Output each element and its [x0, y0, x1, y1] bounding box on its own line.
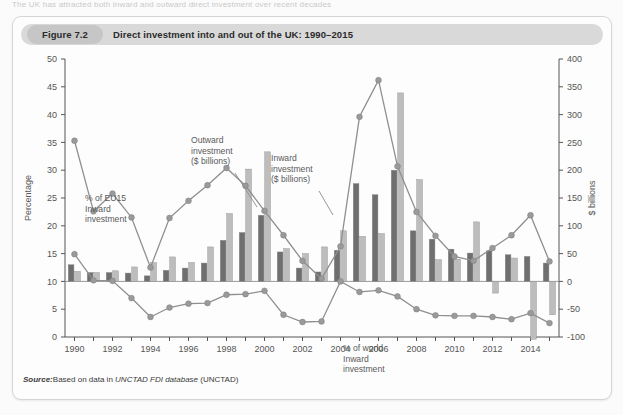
- bar-inward-investment: [524, 256, 530, 281]
- annotation-eu15: % of EU15Inwardinvestment: [85, 193, 127, 224]
- line-marker: [452, 253, 458, 259]
- line-marker: [376, 77, 382, 83]
- bar-outward-investment: [493, 281, 499, 293]
- bar-outward-investment: [189, 263, 195, 282]
- line-marker: [528, 212, 534, 218]
- y-tick-label-left: 0: [52, 332, 57, 342]
- chart-plot-area: 05101520253035404550-100-500501001502002…: [13, 45, 611, 375]
- bar-outward-investment: [284, 249, 290, 282]
- bar-inward-investment: [429, 239, 435, 281]
- x-tick-label: 1996: [178, 344, 198, 354]
- y-tick-label-left: 5: [52, 304, 57, 314]
- line-marker: [110, 278, 116, 284]
- source-text-1: Based on data in: [53, 375, 115, 384]
- line-marker: [490, 245, 496, 251]
- bar-inward-investment: [391, 170, 397, 281]
- line-marker: [281, 232, 287, 238]
- bar-outward-investment: [170, 257, 176, 281]
- bar-inward-investment: [467, 253, 473, 281]
- source-lead: Source:: [23, 375, 53, 384]
- bar-outward-investment: [303, 254, 309, 282]
- y-tick-label-right: 300: [567, 110, 582, 120]
- y-tick-label-right: -50: [567, 304, 580, 314]
- y-tick-label-right: 400: [567, 54, 582, 64]
- y-tick-label-left: 45: [47, 82, 57, 92]
- line-marker: [547, 258, 553, 264]
- x-tick-label: 2008: [406, 344, 426, 354]
- line-marker: [186, 301, 192, 307]
- bar-outward-investment: [474, 222, 480, 281]
- line-marker: [471, 258, 477, 264]
- y-tick-label-right: 150: [567, 193, 582, 203]
- line-marker: [547, 320, 553, 326]
- bar-outward-investment: [398, 93, 404, 281]
- line-marker: [357, 114, 363, 120]
- annotation-world: % of worldInwardinvestment: [343, 343, 385, 374]
- line-marker: [528, 310, 534, 316]
- line-marker: [433, 312, 439, 318]
- bar-inward-investment: [505, 255, 511, 282]
- bar-outward-investment: [132, 267, 138, 281]
- x-tick-label: 1998: [216, 344, 236, 354]
- y-tick-label-left: 40: [47, 110, 57, 120]
- x-tick-label: 2010: [444, 344, 464, 354]
- annotation-outward: Outwardinvestment($ billions): [191, 135, 233, 166]
- y-tick-label-right: 50: [567, 249, 577, 259]
- bar-outward-investment: [436, 260, 442, 282]
- line-marker: [338, 243, 344, 249]
- line-marker: [376, 287, 382, 293]
- line-marker: [471, 313, 477, 319]
- y-axis-title-right: $ billions: [587, 180, 597, 216]
- line-marker: [452, 313, 458, 319]
- x-tick-label: 2014: [520, 344, 540, 354]
- bar-inward-investment: [258, 215, 264, 281]
- bar-inward-investment: [296, 268, 302, 281]
- line-marker: [414, 306, 420, 312]
- investment-chart: 05101520253035404550-100-500501001502002…: [13, 45, 611, 375]
- source-italic: UNCTAD FDI database: [115, 375, 198, 384]
- line-marker: [148, 314, 154, 320]
- x-tick-label: 2000: [254, 344, 274, 354]
- figure-title: Direct investment into and out of the UK…: [113, 29, 353, 40]
- bar-outward-investment: [550, 281, 556, 314]
- line-marker: [129, 215, 135, 221]
- line-marker: [262, 208, 268, 214]
- bar-outward-investment: [227, 214, 233, 282]
- line-marker: [433, 233, 439, 239]
- bar-inward-investment: [239, 232, 245, 281]
- bar-outward-investment: [379, 234, 385, 282]
- bar-outward-investment: [455, 259, 461, 281]
- line-marker: [338, 279, 344, 285]
- y-tick-label-right: 0: [567, 277, 572, 287]
- line-marker: [262, 288, 268, 294]
- bar-outward-investment: [512, 258, 518, 281]
- line-marker: [129, 295, 135, 301]
- x-tick-label: 2012: [482, 344, 502, 354]
- figure-page: The UK has attracted both inward and out…: [0, 0, 623, 415]
- line-marker: [300, 319, 306, 325]
- y-tick-label-right: 200: [567, 165, 582, 175]
- line-marker: [72, 138, 78, 144]
- bar-outward-investment: [75, 271, 81, 281]
- bar-inward-investment: [486, 251, 492, 282]
- line-marker: [281, 312, 287, 318]
- y-tick-label-left: 50: [47, 54, 57, 64]
- bar-inward-investment: [68, 265, 74, 282]
- line-marker: [509, 316, 515, 322]
- line-marker: [300, 258, 306, 264]
- bar-inward-investment: [182, 268, 188, 281]
- y-tick-label-right: 250: [567, 138, 582, 148]
- figure-header: Figure 7.2 Direct investment into and ou…: [21, 24, 603, 45]
- bar-inward-investment: [353, 184, 359, 282]
- bar-inward-investment: [125, 273, 131, 281]
- bar-outward-investment: [360, 236, 366, 281]
- line-marker: [205, 300, 211, 306]
- bar-inward-investment: [201, 263, 207, 281]
- x-tick-label: 1990: [64, 344, 84, 354]
- y-tick-label-left: 15: [47, 249, 57, 259]
- y-tick-label-right: -100: [567, 332, 585, 342]
- y-tick-label-left: 35: [47, 138, 57, 148]
- bar-inward-investment: [163, 270, 169, 281]
- source-text-2: (UNCTAD): [198, 375, 238, 384]
- line-marker: [414, 209, 420, 215]
